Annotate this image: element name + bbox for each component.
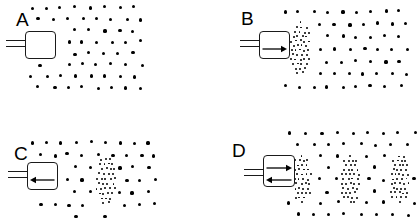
- arrow-left-icon: [30, 175, 55, 185]
- panel-label-a: A: [16, 10, 29, 29]
- panel-label-c: C: [14, 144, 28, 163]
- arrow-left-icon: [266, 175, 292, 185]
- panel-b: B: [209, 0, 418, 110]
- transducer-d[interactable]: [209, 110, 418, 219]
- probe-lead-wire: [240, 40, 260, 41]
- transducer-c[interactable]: [0, 110, 209, 219]
- transducer-a[interactable]: [0, 0, 209, 110]
- panel-d: D: [209, 110, 418, 219]
- probe-lead-wire: [244, 169, 264, 170]
- arrow-left-icon: [266, 171, 292, 189]
- arrow-right-icon: [262, 44, 287, 54]
- panel-label-b: B: [241, 9, 254, 28]
- probe-lead-wire: [6, 40, 26, 41]
- figure-root: ABCD: [0, 0, 418, 219]
- panel-c: C: [0, 110, 209, 219]
- probe-lead-wire: [6, 46, 26, 47]
- probe-lead-wire: [8, 177, 28, 178]
- probe-lead-wire: [240, 46, 260, 47]
- probe-lead-wire: [244, 175, 264, 176]
- arrow-right-icon: [262, 40, 287, 58]
- arrow-left-icon: [30, 171, 55, 189]
- panel-label-d: D: [232, 141, 246, 160]
- probe-lead-wire: [8, 171, 28, 172]
- probe-body: [25, 31, 56, 59]
- panel-a: A: [0, 0, 209, 110]
